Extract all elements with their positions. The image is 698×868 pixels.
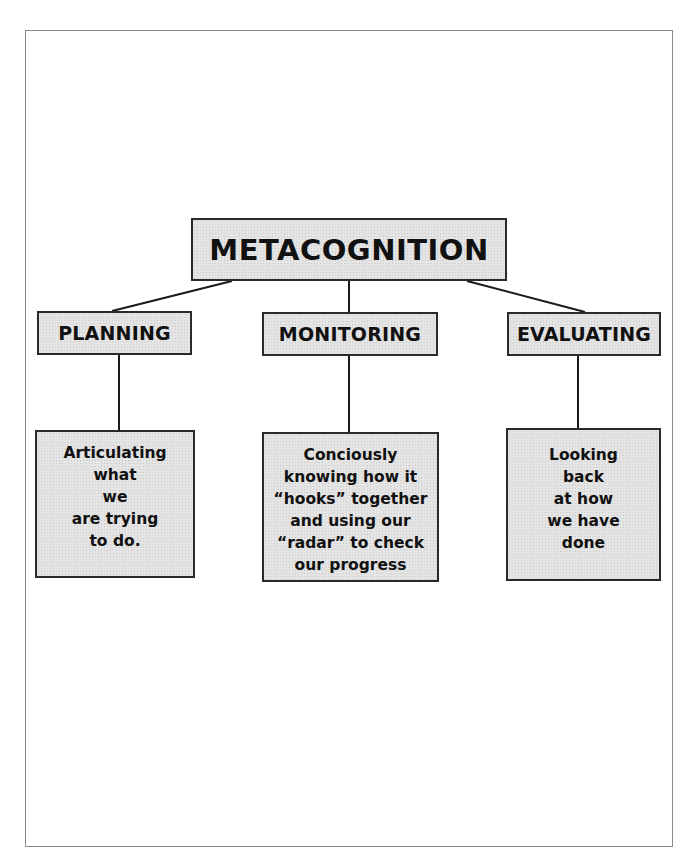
monitoring-label: MONITORING <box>279 323 421 345</box>
planning-description-box: Articulating what we are trying to do. <box>35 430 195 578</box>
planning-description: Articulating what we are trying to do. <box>63 442 166 552</box>
planning-label: PLANNING <box>58 322 171 344</box>
node-monitoring: MONITORING <box>262 312 438 356</box>
monitoring-description: Conciously knowing how it “hooks” togeth… <box>274 444 428 576</box>
evaluating-label: EVALUATING <box>517 323 651 345</box>
evaluating-description-box: Looking back at how we have done <box>506 428 661 581</box>
node-evaluating: EVALUATING <box>507 312 661 356</box>
root-label: METACOGNITION <box>209 233 488 267</box>
node-planning: PLANNING <box>37 311 192 355</box>
root-node-metacognition: METACOGNITION <box>191 218 507 281</box>
monitoring-description-box: Conciously knowing how it “hooks” togeth… <box>262 432 439 582</box>
evaluating-description: Looking back at how we have done <box>547 444 619 554</box>
